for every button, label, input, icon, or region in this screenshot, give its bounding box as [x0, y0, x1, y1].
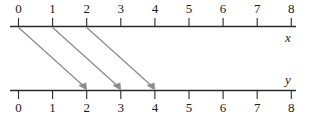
y-tick-label-8: 8 — [282, 101, 300, 115]
x-tick-label-1: 1 — [44, 2, 62, 16]
number-line-mapping-figure: 0 1 2 3 4 5 6 7 8 0 1 2 3 4 5 6 7 8 x y — [0, 0, 314, 127]
x-axis-ticks — [19, 18, 292, 27]
y-tick-label-5: 5 — [180, 101, 198, 115]
arrow-0-to-2-shaft — [19, 28, 86, 88]
y-axis-label: y — [285, 73, 291, 87]
y-tick-label-3: 3 — [112, 101, 130, 115]
x-tick-label-7: 7 — [248, 2, 266, 16]
y-tick-label-0: 0 — [10, 101, 28, 115]
x-tick-label-0: 0 — [10, 2, 28, 16]
x-tick-label-4: 4 — [146, 2, 164, 16]
x-axis-group — [10, 18, 296, 27]
x-tick-label-3: 3 — [112, 2, 130, 16]
y-axis-ticks — [19, 91, 292, 100]
y-tick-label-2: 2 — [78, 101, 96, 115]
x-tick-label-2: 2 — [78, 2, 96, 16]
arrow-2-to-4-head — [147, 83, 155, 90]
y-tick-label-6: 6 — [214, 101, 232, 115]
mapping-arrows — [19, 28, 155, 91]
arrow-2-to-4-shaft — [87, 28, 154, 88]
x-tick-label-6: 6 — [214, 2, 232, 16]
arrow-1-to-3-shaft — [53, 28, 120, 88]
x-axis-label: x — [285, 31, 291, 45]
y-axis-group — [10, 91, 296, 100]
y-tick-label-1: 1 — [44, 101, 62, 115]
y-tick-label-7: 7 — [248, 101, 266, 115]
arrow-2-to-4 — [87, 28, 155, 91]
arrow-0-to-2 — [19, 28, 87, 91]
arrow-1-to-3 — [53, 28, 121, 91]
y-tick-label-4: 4 — [146, 101, 164, 115]
arrow-1-to-3-head — [113, 83, 121, 90]
arrow-0-to-2-head — [79, 83, 87, 90]
x-tick-label-5: 5 — [180, 2, 198, 16]
x-tick-label-8: 8 — [282, 2, 300, 16]
